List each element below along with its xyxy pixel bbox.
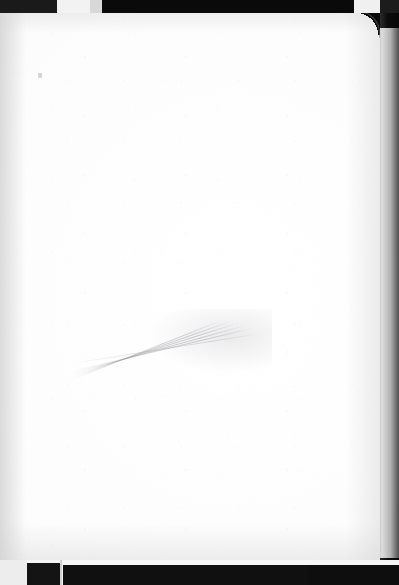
rule-line: [4, 516, 376, 517]
rule-line: [4, 33, 376, 34]
rule-line: [4, 125, 376, 126]
rule-line: [4, 194, 376, 195]
rule-line: [4, 424, 376, 425]
rule-line: [4, 217, 376, 218]
scanned-page: [0, 0, 399, 585]
rule-line: [4, 332, 376, 333]
bottom-segment-dark-3: [308, 565, 399, 585]
band-segment-gray-step: [90, 0, 102, 13]
rule-line: [4, 378, 376, 379]
band-segment-dark-right: [380, 0, 399, 13]
rule-line: [4, 309, 376, 310]
rule-line: [4, 447, 376, 448]
right-scanner-lid-strip: [380, 28, 399, 558]
band-segment-dark-center: [102, 0, 354, 13]
bottom-background-band: [0, 560, 399, 585]
rule-line: [4, 79, 376, 80]
rule-line: [4, 355, 376, 356]
rule-line: [4, 539, 376, 540]
bottom-segment-light-left: [0, 560, 27, 585]
band-segment-white-lid-2: [354, 0, 380, 13]
rule-line: [4, 263, 376, 264]
rule-line: [4, 56, 376, 57]
paper-sheet: [0, 11, 380, 563]
bottom-segment-dark-2: [63, 565, 308, 585]
band-segment-dark-left: [0, 0, 57, 13]
rule-line: [4, 470, 376, 471]
rule-line: [4, 171, 376, 172]
rule-line: [4, 148, 376, 149]
rule-line: [4, 401, 376, 402]
rule-line: [4, 240, 376, 241]
band-segment-white-lid-1: [57, 0, 90, 13]
rule-line: [4, 556, 376, 557]
bottom-segment-dark-1: [27, 563, 60, 585]
top-background-band: [0, 0, 399, 13]
rule-line: [4, 493, 376, 494]
rule-line: [4, 286, 376, 287]
ruled-lines-group: [0, 11, 380, 563]
rule-line: [4, 102, 376, 103]
pencil-tick-mark: [38, 73, 42, 78]
